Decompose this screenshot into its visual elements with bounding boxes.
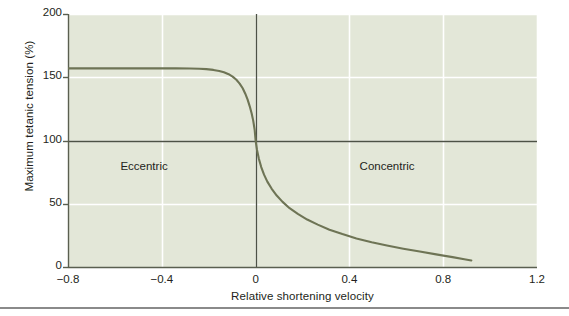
eccentric-label: Eccentric: [120, 160, 167, 172]
x-tick-label: 0.8: [413, 273, 473, 285]
x-tick-label: −0.8: [38, 273, 98, 285]
x-tick-label: 0: [226, 273, 286, 285]
x-tick-label: 1.2: [507, 273, 567, 285]
x-tick-label: −0.4: [132, 273, 192, 285]
x-axis-label: Relative shortening velocity: [68, 290, 537, 302]
concentric-label: Concentric: [360, 160, 415, 172]
x-tick-labels: −0.8−0.400.40.81.2: [0, 0, 569, 316]
force-velocity-figure: Maximum tetanic tension (%) 050100150200…: [0, 0, 569, 316]
x-tick-label: 0.4: [319, 273, 379, 285]
figure-bottom-rule: [0, 307, 569, 309]
